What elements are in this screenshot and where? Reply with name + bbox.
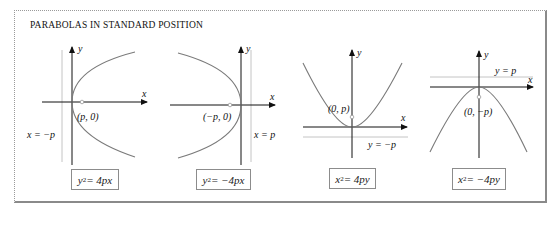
directrix-label: x = p (253, 129, 275, 140)
focus-point (350, 115, 354, 119)
x-axis-label: x (141, 88, 147, 99)
graph-right-opening: y x (p, 0) x = −p (26, 43, 147, 165)
equation-box-down-opening: x2 = −4py (452, 168, 506, 190)
equation-rhs: = −4px (211, 174, 244, 186)
equation-rhs: = 4px (86, 174, 112, 186)
x-axis-label: x (269, 91, 275, 102)
y-axis-label: y (245, 43, 251, 54)
directrix-label: y = p (494, 65, 516, 76)
equation-rhs: = −4py (466, 173, 499, 185)
focus-label: (−p, 0) (203, 111, 232, 123)
focus-point (80, 100, 84, 104)
focus-label: (0, −p) (464, 106, 493, 118)
focus-label: (p, 0) (77, 111, 99, 123)
equation-rhs: = 4py (344, 173, 370, 185)
equation-box-right-opening: y2 = 4px (71, 169, 119, 190)
equation-box-left-opening: y2 = −4px (196, 169, 251, 190)
focus-point (477, 95, 481, 99)
y-axis-label: y (356, 47, 362, 58)
directrix-label: y = −p (367, 139, 396, 150)
directrix-label: x = −p (26, 129, 55, 140)
parabola-curve (72, 52, 135, 157)
focus-point (228, 103, 232, 107)
graph-down-opening: y x (0, −p) y = p (430, 49, 533, 158)
graph-left-opening: y x (−p, 0) x = p (170, 43, 275, 165)
equation-box-up-opening: x2 = 4py (329, 168, 376, 189)
graph-up-opening: y x (0, p) y = −p (303, 47, 408, 158)
focus-label: (0, p) (328, 103, 350, 115)
x-axis-label: x (400, 112, 406, 123)
y-axis-label: y (483, 49, 489, 60)
y-axis-label: y (77, 43, 83, 54)
x-axis-label: x (527, 74, 533, 85)
